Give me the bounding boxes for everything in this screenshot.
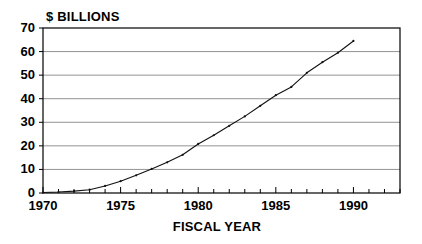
- data-point-marker: [57, 191, 59, 193]
- data-point-marker: [166, 161, 168, 163]
- data-point-marker: [120, 180, 122, 182]
- data-series-line: [43, 41, 353, 193]
- x-tick-label: 1990: [333, 198, 373, 213]
- data-point-marker: [244, 115, 246, 117]
- y-tick-label: 70: [5, 20, 35, 35]
- y-tick-label: 60: [5, 44, 35, 59]
- data-point-marker: [151, 168, 153, 170]
- data-point-marker: [104, 185, 106, 187]
- data-point-marker: [275, 94, 277, 96]
- y-tick-label: 30: [5, 114, 35, 129]
- x-tick-label: 1975: [101, 198, 141, 213]
- data-point-marker: [321, 61, 323, 63]
- x-tick-label: 1985: [256, 198, 296, 213]
- data-point-marker: [135, 174, 137, 176]
- data-point-marker: [290, 86, 292, 88]
- data-point-marker: [228, 125, 230, 127]
- y-tick-label: 10: [5, 161, 35, 176]
- data-point-marker: [88, 189, 90, 191]
- data-point-marker: [352, 40, 354, 42]
- x-tick-label: 1980: [178, 198, 218, 213]
- data-point-marker: [73, 190, 75, 192]
- data-point-marker: [337, 52, 339, 54]
- plot-frame: [43, 28, 400, 193]
- data-point-marker: [213, 134, 215, 136]
- x-axis-title: FISCAL YEAR: [0, 219, 422, 234]
- chart-container: $ BILLIONS FISCAL YEAR 010203040506070 1…: [0, 0, 422, 244]
- data-point-marker: [306, 72, 308, 74]
- gridlines-group: [43, 52, 400, 170]
- y-tick-label: 50: [5, 67, 35, 82]
- data-point-marker: [42, 191, 44, 193]
- data-series-points: [42, 40, 355, 194]
- y-tick-label: 40: [5, 91, 35, 106]
- y-tick-label: 20: [5, 138, 35, 153]
- x-tick-label: 1970: [23, 198, 63, 213]
- data-point-marker: [182, 154, 184, 156]
- data-point-marker: [197, 143, 199, 145]
- data-point-marker: [259, 105, 261, 107]
